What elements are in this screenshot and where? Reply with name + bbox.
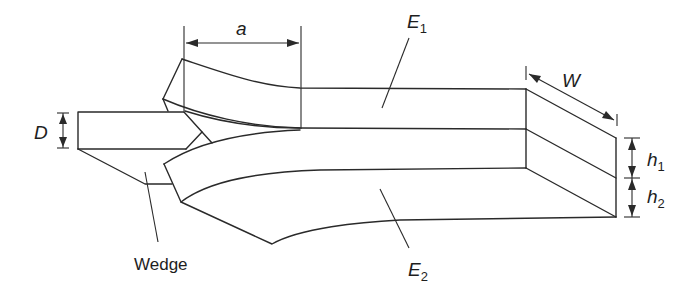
upper-modulus-label: E1 <box>382 11 427 108</box>
diagram-canvas: a Wedge W <box>0 0 699 291</box>
thickness-dimension: h1 h2 <box>624 138 665 217</box>
label-h2: h2 <box>647 186 665 211</box>
wedge-test-diagram: a Wedge W <box>0 0 699 291</box>
lower-beam <box>164 130 616 244</box>
label-d: D <box>34 122 48 143</box>
label-a: a <box>236 18 247 39</box>
lower-modulus-label: E2 <box>380 189 428 284</box>
label-h1: h1 <box>647 149 665 174</box>
end-faces <box>526 89 616 217</box>
svg-text:E2: E2 <box>408 259 428 284</box>
label-w: W <box>562 70 582 91</box>
label-wedge: Wedge <box>134 255 188 274</box>
wedge-thickness-dimension: D <box>34 113 69 148</box>
svg-text:E1: E1 <box>407 11 427 36</box>
wedge: Wedge <box>78 112 212 274</box>
upper-beam <box>163 59 526 129</box>
